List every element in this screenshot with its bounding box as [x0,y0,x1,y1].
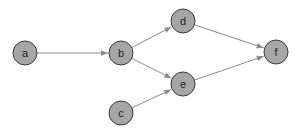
directed-graph: abcdef [0,0,300,132]
node-e: e [171,72,195,96]
node-label: b [118,47,124,59]
node-label: c [118,107,124,119]
nodes-layer: abcdef [13,9,288,125]
edges-layer [37,25,264,108]
node-label: e [180,78,186,90]
node-label: d [180,15,186,27]
node-label: a [22,47,29,59]
edge-d-f [194,25,263,48]
edge-b-e [132,58,172,78]
node-d: d [171,9,195,33]
node-a: a [13,41,37,65]
node-f: f [264,40,288,64]
edge-c-e [132,90,171,108]
node-b: b [109,41,133,65]
node-c: c [109,101,133,125]
edge-e-f [194,56,263,80]
edge-b-d [132,27,172,48]
